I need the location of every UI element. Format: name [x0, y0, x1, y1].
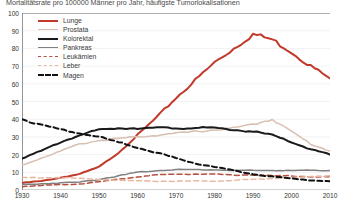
x-axis: 193019401950196019701980199020002010	[0, 192, 341, 206]
legend-label: Leber	[63, 61, 80, 70]
x-axis-tick-label: 1970	[169, 192, 184, 199]
chart-legend: LungeProstataKolorektalPankreasLeukämien…	[38, 16, 96, 80]
legend-item-pankreas[interactable]: Pankreas	[38, 43, 96, 52]
x-axis-tick-label: 2010	[323, 192, 338, 199]
x-axis-tick-label: 2000	[284, 192, 299, 199]
y-axis-tick-label: 90	[12, 27, 19, 34]
y-axis-tick-label: 20	[12, 151, 19, 158]
legend-item-kolorektal[interactable]: Kolorektal	[38, 34, 96, 43]
legend-label: Prostata	[63, 25, 88, 34]
chart-container: Mortalitätsrate pro 100000 Männer pro Ja…	[0, 0, 341, 214]
legend-item-leukämien[interactable]: Leukämien	[38, 52, 96, 61]
y-axis-tick-label: 60	[12, 80, 19, 87]
x-axis-tick-label: 1980	[207, 192, 222, 199]
x-axis-tick-label: 1940	[53, 192, 68, 199]
legend-label: Lunge	[63, 16, 82, 25]
y-axis-tick-label: 70	[12, 63, 19, 70]
y-axis-tick-label: 10	[12, 169, 19, 176]
y-axis-tick-label: 100	[8, 10, 19, 17]
x-axis-tick-label: 1950	[92, 192, 107, 199]
series-line-kolorektal	[22, 127, 330, 159]
legend-label: Leukämien	[63, 52, 96, 61]
legend-item-prostata[interactable]: Prostata	[38, 25, 96, 34]
x-axis-tick-label: 1930	[15, 192, 30, 199]
legend-label: Kolorektal	[63, 34, 93, 43]
legend-label: Magen	[63, 71, 84, 80]
y-axis-tick-label: 30	[12, 133, 19, 140]
y-axis-tick-label: 40	[12, 116, 19, 123]
x-axis-tick-label: 1990	[246, 192, 261, 199]
legend-item-magen[interactable]: Magen	[38, 71, 96, 80]
legend-label: Pankreas	[63, 43, 92, 52]
y-axis-tick-label: 50	[12, 98, 19, 105]
x-axis-tick-label: 1960	[130, 192, 145, 199]
y-axis-tick-label: 80	[12, 45, 19, 52]
y-axis: 0102030405060708090100	[0, 13, 19, 190]
legend-item-lunge[interactable]: Lunge	[38, 16, 96, 25]
legend-item-leber[interactable]: Leber	[38, 61, 96, 70]
chart-title: Mortalitätsrate pro 100000 Männer pro Ja…	[6, 0, 341, 7]
